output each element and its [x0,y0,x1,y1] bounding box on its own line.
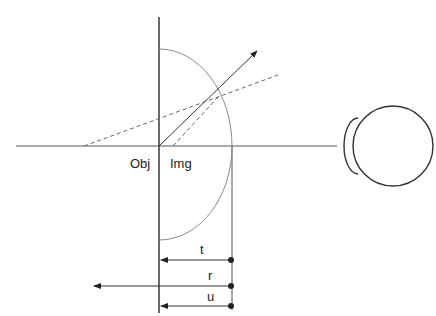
optics-diagram [0,0,436,316]
eye-icon [344,106,433,186]
dimension-t [161,257,234,263]
refracted-ray-arrow [159,51,257,146]
r-label: r [208,269,212,282]
u-label: u [207,290,214,303]
image-label: Img [170,157,192,170]
t-label: t [200,243,204,256]
dashed-apparent-ray [173,96,219,146]
object-label: Obj [130,157,150,170]
hemisphere-arc [159,49,232,240]
dimension-u [161,303,234,309]
dashed-extended-ray [84,75,278,146]
